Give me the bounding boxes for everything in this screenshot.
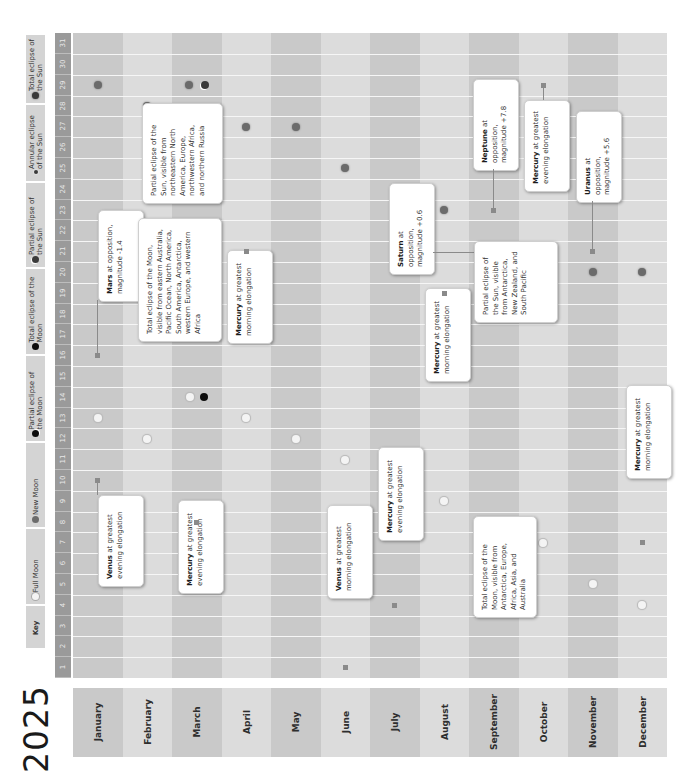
annotation-text: Venus at greatest morning elongation	[335, 513, 354, 591]
annotation-subject: Mercury	[532, 152, 540, 184]
annotation-subject: Uranus	[584, 167, 592, 195]
annotation-subject: Mars	[106, 275, 114, 294]
annotation-subject: Venus	[335, 567, 343, 591]
day-label-8: 8	[55, 512, 71, 533]
day-label-30: 30	[55, 54, 71, 75]
key-item-tlunar-text: Total eclipse of the Moon	[27, 271, 45, 342]
day-label-25: 25	[55, 158, 71, 179]
day-number: 11	[58, 451, 68, 467]
annotation-description: Total eclipse of the Moon, visible from …	[481, 543, 527, 610]
annotation-text: Mercury at greatest morning elongation	[235, 258, 254, 336]
day-label-20: 20	[55, 262, 71, 283]
day-number: 10	[58, 472, 68, 488]
day-label-22: 22	[55, 220, 71, 241]
event-marker	[392, 603, 397, 608]
day-number: 27	[58, 118, 68, 134]
annotation-subject: Mercury	[433, 342, 441, 374]
day-label-12: 12	[55, 428, 71, 449]
annotation-subject: Mercury	[235, 304, 243, 336]
annotation-box: Total eclipse of the Moon, visible from …	[138, 218, 222, 342]
day-number: 31	[58, 35, 68, 51]
month-label-july: July	[370, 688, 420, 757]
annotation-box: Mercury at greatest morning elongation	[626, 385, 672, 479]
day-number: 5	[58, 576, 68, 592]
event-marker	[95, 478, 100, 483]
day-gridline	[73, 75, 667, 76]
event-marker	[442, 291, 447, 296]
day-number: 18	[58, 306, 68, 322]
annotation-subject: Neptune	[481, 129, 489, 163]
day-label-27: 27	[55, 116, 71, 137]
annotation-subject: Mercury	[634, 439, 642, 471]
day-label-18: 18	[55, 304, 71, 325]
day-number: 24	[58, 181, 68, 197]
day-number: 21	[58, 243, 68, 259]
month-name: June	[338, 688, 352, 757]
key-item-tlunar: Total eclipse of the Moon	[26, 269, 45, 356]
day-label-3: 3	[55, 616, 71, 637]
day-number: 20	[58, 264, 68, 280]
month-label-may: May	[271, 688, 321, 757]
day-gridline	[73, 428, 667, 429]
day-gridline	[73, 345, 667, 346]
annotation-box: Mercury at greatest evening elongation	[524, 100, 570, 192]
annotation-text: Mercury at greatest evening elongation	[532, 108, 551, 184]
key-item-tsolar-text: Total eclipse of the Sun	[27, 37, 45, 91]
day-number: 30	[58, 56, 68, 72]
day-gridline	[73, 96, 667, 97]
day-gridline	[73, 449, 667, 450]
month-column-december	[618, 33, 668, 678]
event-marker	[194, 520, 199, 525]
month-label-november: November	[568, 688, 618, 757]
key-item-asolar-text: Annular eclipse of the Sun	[27, 107, 45, 169]
day-label-5: 5	[55, 574, 71, 595]
month-label-february: February	[123, 688, 173, 757]
day-number: 7	[58, 534, 68, 550]
day-number: 25	[58, 160, 68, 176]
annotation-text: Uranus at opposition, magnitude +5.6	[584, 119, 613, 195]
annotation-text: Partial eclipse of the Sun, visible from…	[482, 249, 530, 315]
key-item-new-text: New Moon	[27, 445, 45, 515]
key-item-new: New Moon	[26, 443, 45, 529]
annotation-box: Venus at greatest morning elongation	[327, 505, 373, 599]
month-label-march: March	[172, 688, 222, 757]
day-label-13: 13	[55, 408, 71, 429]
day-label-24: 24	[55, 179, 71, 200]
partial-lunar-eclipse-icon	[32, 430, 39, 437]
key-item-plunar: Partial eclipse of the Moon	[26, 356, 45, 443]
new-moon-icon	[94, 81, 102, 89]
day-label-23: 23	[55, 200, 71, 221]
day-gridline	[73, 616, 667, 617]
key-item-psolar-text: Partial eclipse of the Sun	[27, 185, 45, 255]
annotation-text: Saturn at opposition, magnitude +0.6	[397, 191, 426, 267]
month-label-september: September	[469, 688, 519, 757]
annotation-box: Mercury at greatest morning elongation	[425, 288, 471, 382]
annotation-description: Partial eclipse of the Sun, visible from…	[150, 125, 206, 196]
annotation-box: Total eclipse of the Moon, visible from …	[473, 516, 537, 618]
key-item-full-text: Full Moon	[27, 531, 45, 592]
day-label-31: 31	[55, 33, 71, 54]
connector-line	[433, 252, 480, 253]
day-number: 9	[58, 493, 68, 509]
annotation-description: Total eclipse of the Moon, visible from …	[146, 229, 202, 334]
day-label-11: 11	[55, 449, 71, 470]
day-number: 16	[58, 347, 68, 363]
day-number: 6	[58, 555, 68, 571]
event-marker	[541, 83, 546, 88]
day-label-17: 17	[55, 324, 71, 345]
month-label-august: August	[420, 688, 470, 757]
day-number: 15	[58, 368, 68, 384]
annotation-box: Venus at greatest evening elongation	[98, 495, 144, 587]
day-number: 14	[58, 389, 68, 405]
new-moon-icon	[185, 81, 193, 89]
day-number: 12	[58, 430, 68, 446]
month-column-july	[370, 33, 420, 678]
annotation-text: Mercury at greatest morning elongation	[634, 393, 653, 471]
day-label-7: 7	[55, 532, 71, 553]
day-number: 22	[58, 222, 68, 238]
full-moon-icon	[32, 593, 39, 600]
event-marker	[640, 540, 645, 545]
day-number: 17	[58, 326, 68, 342]
annotation-box: Partial eclipse of the Sun, visible from…	[474, 241, 558, 323]
partial-solar-eclipse-icon	[32, 256, 39, 263]
